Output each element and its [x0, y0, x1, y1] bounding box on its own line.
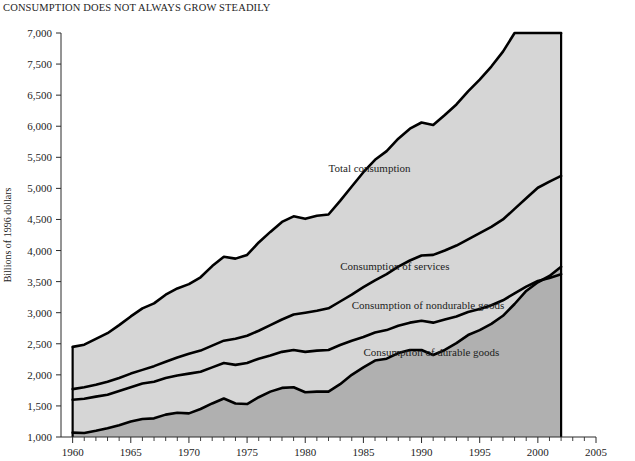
x-tick-label-2005: 2005 — [585, 446, 608, 458]
y-tick-label-1500: 2,000 — [27, 369, 52, 381]
y-tick-label-3000: 3,500 — [27, 276, 52, 288]
y-tick-label-6000: 6,500 — [27, 89, 52, 101]
x-tick-label-1965: 1965 — [120, 446, 143, 458]
series-label-consumption-of-services: Consumption of services — [340, 260, 449, 272]
series-label-consumption-of-durable-goods: Consumption of durable goods — [363, 346, 499, 358]
y-tick-label-2000: 2,500 — [27, 338, 52, 350]
consumption-area-chart: 7,0007,5006,5006,0005,5005,0004,5004,000… — [0, 0, 635, 461]
y-axis-title: Billions of 1996 dollars — [2, 188, 13, 283]
series-label-total-consumption: Total consumption — [329, 162, 412, 174]
x-tick-label-1990: 1990 — [411, 446, 434, 458]
x-tick-label-1960: 1960 — [62, 446, 85, 458]
x-tick-label-1970: 1970 — [178, 446, 201, 458]
y-tick-label-5000: 5,500 — [27, 151, 52, 163]
y-tick-label-2500: 3,000 — [27, 307, 52, 319]
y-tick-label-3500: 4,000 — [27, 245, 52, 257]
y-tick-label-7000: 7,000 — [27, 27, 52, 39]
y-tick-label-500: 1,000 — [27, 431, 52, 443]
series-label-consumption-of-nondurable-goods: Consumption of nondurable goods — [352, 299, 504, 311]
y-tick-label-6500: 7,500 — [27, 58, 52, 70]
x-tick-label-1975: 1975 — [236, 446, 259, 458]
y-tick-label-4000: 4,500 — [27, 213, 52, 225]
x-tick-label-2000: 2000 — [527, 446, 550, 458]
y-tick-label-1000: 1,500 — [27, 400, 52, 412]
x-tick-label-1995: 1995 — [469, 446, 492, 458]
x-tick-label-1985: 1985 — [352, 446, 375, 458]
x-tick-label-1980: 1980 — [294, 446, 317, 458]
y-tick-label-5500: 6,000 — [27, 120, 52, 132]
chart-figure: CONSUMPTION DOES NOT ALWAYS GROW STEADIL… — [0, 0, 635, 461]
y-tick-label-4500: 5,000 — [27, 182, 52, 194]
